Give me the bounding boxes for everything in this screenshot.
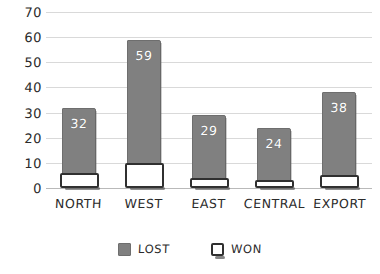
x-axis-tick-label: CENTRAL (241, 196, 307, 211)
y-axis-tick-label: 20 (8, 130, 43, 145)
bar-group: 29 (192, 12, 226, 188)
bar-chart: 010203040506070 3259292438 NORTHWESTEAST… (0, 0, 380, 274)
legend-swatch-won-icon (211, 243, 224, 256)
bar-lost[interactable]: 24 (257, 128, 291, 188)
bar-won[interactable] (125, 163, 164, 188)
y-axis-tick-label: 30 (8, 105, 43, 120)
y-axis: 010203040506070 (0, 12, 42, 188)
bar-value-label: 24 (258, 136, 291, 151)
bar-group: 32 (62, 12, 96, 188)
x-axis: NORTHWESTEASTCENTRALEXPORT (46, 196, 372, 218)
bar-won[interactable] (190, 178, 229, 188)
x-axis-tick-label: EAST (176, 196, 242, 211)
bar-value-label: 32 (62, 116, 95, 131)
bar-value-label: 29 (193, 123, 226, 138)
legend-swatch-lost-icon (118, 243, 131, 256)
legend-item-won[interactable]: WON (211, 242, 262, 256)
bar-group: 24 (257, 12, 291, 188)
y-axis-tick-label: 0 (8, 181, 43, 196)
plot-area: 3259292438 (46, 12, 372, 188)
y-axis-tick-label: 60 (8, 30, 43, 45)
legend-label-lost: LOST (137, 242, 170, 256)
bar-value-label: 38 (323, 100, 356, 115)
y-axis-tick-label: 50 (8, 55, 43, 70)
y-axis-tick-label: 70 (8, 5, 43, 20)
bar-value-label: 59 (127, 48, 160, 63)
bar-lost[interactable]: 38 (322, 92, 356, 188)
bar-group: 59 (127, 12, 161, 188)
y-axis-tick-label: 10 (8, 155, 43, 170)
legend-item-lost[interactable]: LOST (118, 242, 170, 256)
bar-won[interactable] (320, 175, 359, 188)
bar-won[interactable] (255, 180, 294, 188)
bar-won[interactable] (60, 173, 99, 188)
legend-label-won: WON (231, 242, 263, 256)
x-axis-tick-label: NORTH (46, 196, 112, 211)
x-axis-tick-label: EXPORT (306, 196, 372, 211)
bar-group: 38 (322, 12, 356, 188)
chart-legend: LOST WON (0, 238, 380, 260)
x-axis-tick-label: WEST (111, 196, 177, 211)
y-axis-tick-label: 40 (8, 80, 43, 95)
